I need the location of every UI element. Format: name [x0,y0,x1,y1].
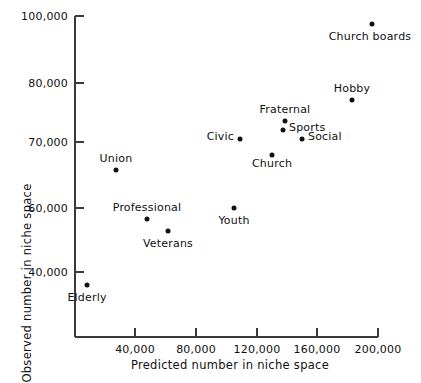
data-point-label: Civic [207,130,234,143]
data-point [370,22,375,27]
y-tick-label: 60,000 [0,202,68,215]
data-point [300,137,305,142]
y-tick-label: 80,000 [0,77,68,90]
data-point [238,137,243,142]
x-tick-label: 120,000 [234,343,281,356]
data-point-label: Social [308,130,342,143]
x-tick-label: 40,000 [115,343,155,356]
data-point-label: Hobby [334,82,370,95]
y-axis-title: Observed number in niche space [20,183,34,382]
data-point [114,168,119,173]
data-point [283,119,288,124]
data-point [145,217,150,222]
x-axis-title: Predicted number in niche space [131,358,329,372]
x-tick-label: 200,000 [355,343,402,356]
data-point-label: Professional [113,201,182,214]
y-tick-label: 40,000 [0,266,68,279]
data-point [232,206,237,211]
data-point-label: Elderly [67,291,106,304]
y-tick-label: 100,000 [0,10,68,23]
data-point [350,98,355,103]
data-point-label: Fraternal [260,103,311,116]
data-point [281,128,286,133]
x-tick-label: 160,000 [294,343,341,356]
data-point-label: Veterans [143,237,193,250]
x-tick-label: 80,000 [176,343,216,356]
data-point [85,283,90,288]
data-point-label: Union [100,152,133,165]
y-tick-label: 70,000 [0,136,68,149]
data-point [166,229,171,234]
data-point-label: Church boards [329,30,412,43]
data-point-label: Church [252,157,292,170]
data-point-label: Youth [218,214,249,227]
